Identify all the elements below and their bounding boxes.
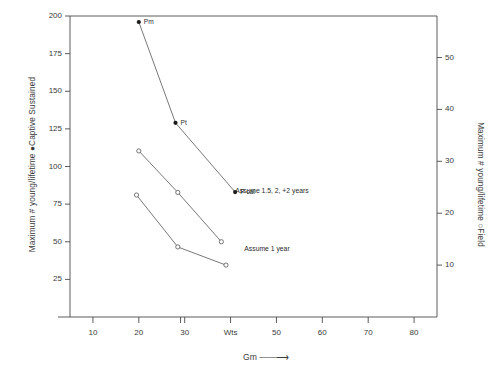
x-axis-tick-label: Wts [211, 328, 251, 337]
data-point-label: Pt [181, 119, 187, 126]
y-axis-left-tick-label: 125 [30, 124, 62, 133]
x-axis-tick-label: 10 [73, 328, 113, 337]
y-axis-right-tick-label: 20 [445, 208, 454, 217]
axis-frame [58, 16, 437, 317]
x-axis-tick-label: 60 [302, 328, 342, 337]
axis-ticks [65, 16, 442, 323]
y-axis-left-tick-label: 150 [30, 86, 62, 95]
chart-annotation: Assume 1 year [244, 245, 289, 252]
y-axis-right-tick-label: 40 [445, 104, 454, 113]
y-axis-left-tick-label: 25 [30, 274, 62, 283]
y-axis-left-tick-label: 200 [30, 11, 62, 20]
figure-container: Maximum # young/lifetime ●Captive Sustai… [0, 0, 489, 379]
data-series-group [134, 20, 237, 267]
y-axis-right-tick-label: 10 [445, 260, 454, 269]
y-axis-left-tick-label: 100 [30, 162, 62, 171]
x-axis-tick-label: 20 [119, 328, 159, 337]
y-axis-right-tick-label: 30 [445, 156, 454, 165]
data-point-label: Pm [144, 18, 154, 25]
x-axis-tick-label: 80 [394, 328, 434, 337]
x-axis-tick-label: 50 [256, 328, 296, 337]
y-axis-left-tick-label: 75 [30, 199, 62, 208]
y-axis-right-tick-label: 50 [445, 53, 454, 62]
y-axis-left-tick-label: 175 [30, 49, 62, 58]
x-axis-tick-label: 30 [165, 328, 205, 337]
y-axis-left-tick-label: 50 [30, 237, 62, 246]
x-axis-tick-label: 70 [348, 328, 388, 337]
chart-annotation: Assume 1.5, 2, +2 years [235, 187, 308, 194]
